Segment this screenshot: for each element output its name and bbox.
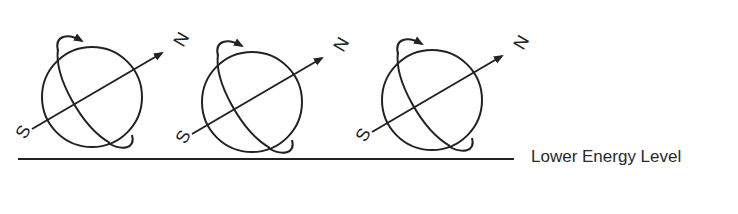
meridian-line: [398, 52, 450, 146]
north-pole-label: N: [329, 34, 353, 55]
spin-diagram: NSNSNS: [0, 0, 738, 214]
rotation-loop: [448, 138, 473, 151]
north-pole-label: N: [509, 32, 533, 53]
meridian-line: [218, 54, 270, 148]
south-pole-label: S: [11, 122, 34, 142]
rotation-loop: [268, 140, 293, 153]
spinning-sphere: NS: [171, 34, 353, 153]
spinning-sphere: NS: [351, 32, 533, 151]
meridian-line: [58, 49, 110, 143]
spinning-sphere: NS: [11, 29, 193, 148]
energy-level-label: Lower Energy Level: [531, 147, 681, 167]
south-pole-label: S: [171, 127, 194, 147]
rotation-loop: [108, 135, 133, 148]
south-pole-label: S: [351, 125, 374, 145]
north-pole-label: N: [169, 29, 193, 50]
